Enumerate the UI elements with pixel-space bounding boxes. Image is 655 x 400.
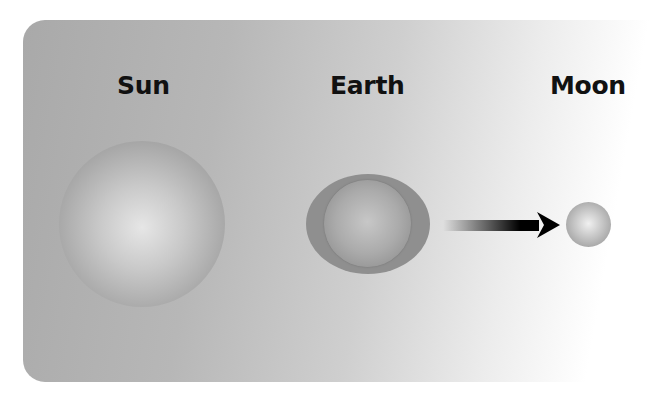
sun-label: Sun bbox=[117, 71, 170, 100]
arrow-right-icon bbox=[443, 212, 561, 238]
sun-sphere bbox=[59, 141, 225, 307]
moon-label: Moon bbox=[550, 71, 626, 100]
arrow-head bbox=[537, 212, 560, 238]
earth-sphere bbox=[324, 180, 411, 267]
earth-label: Earth bbox=[330, 71, 405, 100]
arrow-shaft bbox=[443, 220, 539, 231]
moon-sphere bbox=[566, 202, 611, 247]
